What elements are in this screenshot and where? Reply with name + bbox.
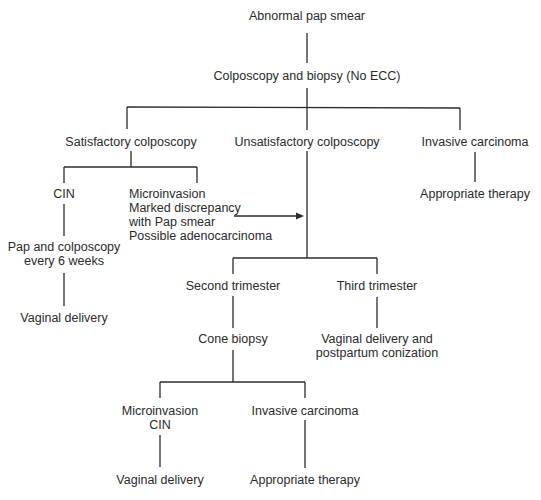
micro-line-1: Microinvasion [129, 187, 272, 201]
pap-line-1: Pap and colposcopy [8, 240, 121, 254]
node-microinvasion-group: Microinvasion Marked discrepancy with Pa… [129, 187, 272, 243]
micro-cin-line-1: Microinvasion [122, 404, 198, 418]
micro-cin-line-2: CIN [122, 418, 198, 432]
node-third-trimester: Third trimester [337, 279, 418, 293]
node-invasive-carcinoma-bottom: Invasive carcinoma [252, 404, 359, 418]
node-appropriate-therapy-bottom: Appropriate therapy [250, 473, 360, 487]
vd-postpartum-line-2: postpartum conization [316, 346, 438, 360]
node-cin: CIN [53, 187, 75, 201]
node-microinvasion-cin: Microinvasion CIN [122, 404, 198, 432]
node-vaginal-delivery-postpartum: Vaginal delivery and postpartum conizati… [316, 332, 438, 360]
micro-line-3: with Pap smear [129, 215, 272, 229]
node-appropriate-therapy-top: Appropriate therapy [420, 187, 530, 201]
micro-line-4: Possible adenocarcinoma [129, 229, 272, 243]
arrowhead-icon [296, 213, 304, 220]
pap-line-2: every 6 weeks [8, 254, 121, 268]
node-satisfactory-colposcopy: Satisfactory colposcopy [65, 135, 196, 149]
node-pap-colposcopy-6-weeks: Pap and colposcopy every 6 weeks [8, 240, 121, 268]
node-unsatisfactory-colposcopy: Unsatisfactory colposcopy [234, 135, 379, 149]
micro-line-2: Marked discrepancy [129, 201, 272, 215]
node-vaginal-delivery-left: Vaginal delivery [20, 311, 107, 325]
node-invasive-carcinoma-top: Invasive carcinoma [422, 135, 529, 149]
branch-level1 [127, 107, 460, 108]
node-abnormal-pap-smear: Abnormal pap smear [249, 9, 365, 23]
vd-postpartum-line-1: Vaginal delivery and [316, 332, 438, 346]
node-cone-biopsy: Cone biopsy [198, 332, 268, 346]
node-vaginal-delivery-bottom: Vaginal delivery [116, 473, 203, 487]
node-second-trimester: Second trimester [186, 279, 280, 293]
node-colposcopy-biopsy: Colposcopy and biopsy (No ECC) [214, 69, 401, 83]
